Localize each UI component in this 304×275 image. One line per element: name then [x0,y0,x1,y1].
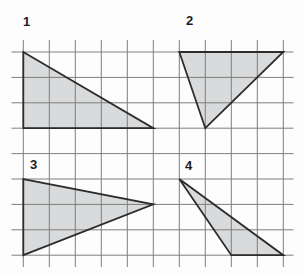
triangle-2-label: 2 [186,13,193,28]
triangle-4-label: 4 [185,158,193,173]
geometry-grid-svg: 1234 [0,0,304,275]
geometry-figure-panel: 1234 [0,0,304,275]
triangle-3-label: 3 [30,157,37,172]
triangle-1-label: 1 [23,14,30,29]
